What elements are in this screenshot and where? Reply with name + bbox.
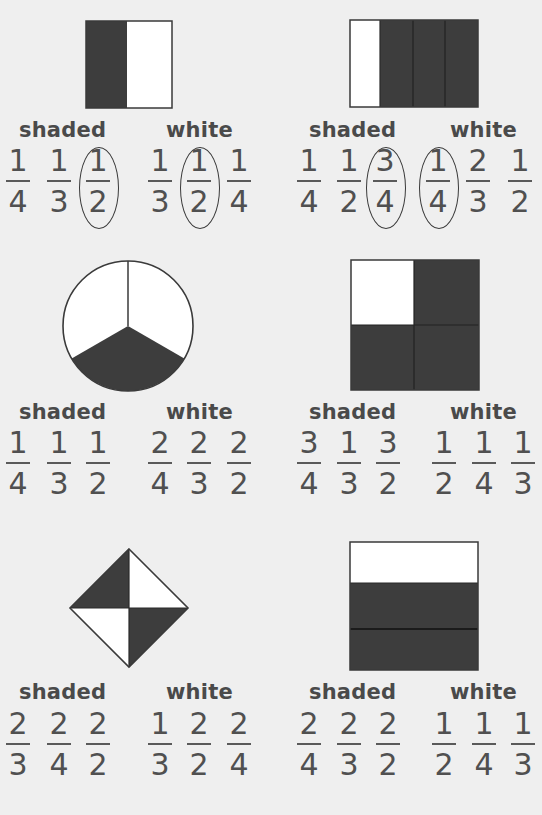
- fraction-choice[interactable]: 12: [508, 146, 532, 217]
- shaded-label: shaded: [19, 400, 106, 424]
- fraction-choice-selected[interactable]: 12: [86, 146, 110, 217]
- fraction-choice[interactable]: 12: [432, 709, 456, 780]
- fraction-choice[interactable]: 23: [6, 709, 30, 780]
- fraction-choice[interactable]: 32: [376, 428, 400, 499]
- circle-thirds-shape: [61, 259, 197, 395]
- rectangle-thirds-shape: [349, 541, 481, 673]
- white-label: white: [450, 680, 517, 704]
- fraction-choice[interactable]: 14: [6, 146, 30, 217]
- fraction-choice[interactable]: 22: [86, 709, 110, 780]
- fraction-choice[interactable]: 23: [337, 709, 361, 780]
- fraction-choice[interactable]: 12: [432, 428, 456, 499]
- shaded-label: shaded: [309, 118, 396, 142]
- fraction-choice[interactable]: 24: [297, 709, 321, 780]
- fraction-choice[interactable]: 13: [337, 428, 361, 499]
- white-label: white: [450, 400, 517, 424]
- shaded-label: shaded: [309, 400, 396, 424]
- white-label: white: [450, 118, 517, 142]
- fraction-choice[interactable]: 22: [187, 709, 211, 780]
- fraction-choice[interactable]: 13: [47, 428, 71, 499]
- fraction-choice[interactable]: 23: [466, 146, 490, 217]
- fraction-choice[interactable]: 13: [511, 428, 535, 499]
- square-quarters-shape: [350, 259, 481, 392]
- fraction-choice[interactable]: 22: [227, 428, 251, 499]
- fraction-choice-selected[interactable]: 14: [426, 146, 450, 217]
- white-label: white: [166, 680, 233, 704]
- fraction-choice[interactable]: 14: [472, 709, 496, 780]
- fraction-choice-selected[interactable]: 34: [373, 146, 397, 217]
- fraction-choice[interactable]: 14: [297, 146, 321, 217]
- fraction-choice-selected[interactable]: 12: [187, 146, 211, 217]
- fraction-choice[interactable]: 14: [472, 428, 496, 499]
- fraction-choice[interactable]: 14: [6, 428, 30, 499]
- fraction-choice[interactable]: 13: [47, 146, 71, 217]
- fraction-choice[interactable]: 13: [511, 709, 535, 780]
- fraction-choice[interactable]: 24: [148, 428, 172, 499]
- fraction-choice[interactable]: 23: [187, 428, 211, 499]
- fraction-choice[interactable]: 12: [86, 428, 110, 499]
- fraction-choice[interactable]: 12: [337, 146, 361, 217]
- fraction-choice[interactable]: 34: [297, 428, 321, 499]
- fraction-choice[interactable]: 22: [376, 709, 400, 780]
- shaded-label: shaded: [309, 680, 396, 704]
- white-label: white: [166, 118, 233, 142]
- fraction-choice[interactable]: 13: [148, 709, 172, 780]
- fraction-choice[interactable]: 24: [227, 709, 251, 780]
- shaded-label: shaded: [19, 680, 106, 704]
- diamond-quarters-shape: [68, 547, 192, 669]
- fraction-choice[interactable]: 14: [227, 146, 251, 217]
- white-label: white: [166, 400, 233, 424]
- fraction-choice[interactable]: 24: [47, 709, 71, 780]
- rectangle-quarters-shape: [349, 19, 481, 109]
- shaded-label: shaded: [19, 118, 106, 142]
- rectangle-halves-shape: [85, 20, 175, 110]
- fraction-choice[interactable]: 13: [148, 146, 172, 217]
